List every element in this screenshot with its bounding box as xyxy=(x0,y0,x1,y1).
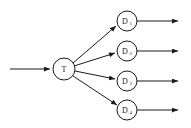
node-d2: D 2 xyxy=(117,41,137,61)
edge-t-to-d1 xyxy=(73,26,116,63)
node-d4: D 4 xyxy=(117,100,137,120)
node-d3: D 3 xyxy=(117,71,137,91)
node-d4-label: D xyxy=(122,106,128,115)
edge-t-to-d2 xyxy=(74,53,115,66)
node-t-label: T xyxy=(62,65,67,74)
edge-t-to-d3 xyxy=(75,71,115,79)
edge-t-to-d4 xyxy=(73,76,117,105)
fanout-diagram: T D 1 D 2 D 3 D 4 xyxy=(0,0,191,128)
node-t: T xyxy=(53,58,75,80)
diagram-canvas: T D 1 D 2 D 3 D 4 xyxy=(0,0,191,128)
node-d3-label: D xyxy=(122,77,128,86)
node-d1-label: D xyxy=(122,17,128,26)
node-d1: D 1 xyxy=(117,11,137,31)
node-d2-label: D xyxy=(122,47,128,56)
